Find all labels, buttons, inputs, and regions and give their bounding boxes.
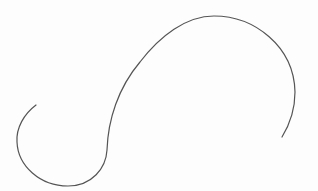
- s-curve-figure: [0, 0, 318, 191]
- drawing-canvas: [0, 0, 318, 191]
- s-curve-stroke: [17, 16, 295, 186]
